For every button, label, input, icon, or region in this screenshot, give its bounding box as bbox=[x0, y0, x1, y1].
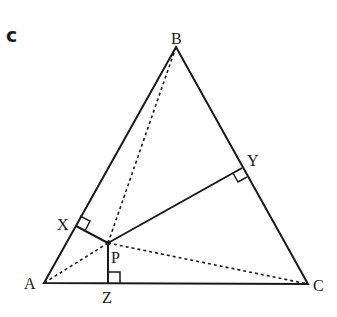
segment-pa bbox=[44, 243, 108, 283]
segment-pc bbox=[108, 243, 308, 284]
triangle-abc bbox=[44, 47, 308, 284]
label-y: Y bbox=[247, 152, 259, 169]
right-angle-z bbox=[108, 272, 120, 283]
right-angle-y bbox=[233, 173, 247, 182]
part-label: c bbox=[6, 24, 17, 46]
triangle-diagram: c B A C P X Y Z bbox=[0, 0, 337, 317]
label-c: C bbox=[313, 277, 324, 294]
segment-py bbox=[108, 168, 242, 243]
label-p: P bbox=[111, 249, 120, 266]
label-a: A bbox=[24, 275, 36, 292]
point-p bbox=[106, 241, 111, 246]
label-z: Z bbox=[102, 289, 112, 306]
label-x: X bbox=[57, 216, 69, 233]
segment-pb bbox=[108, 47, 176, 243]
segment-px bbox=[76, 226, 108, 243]
label-b: B bbox=[171, 30, 182, 47]
